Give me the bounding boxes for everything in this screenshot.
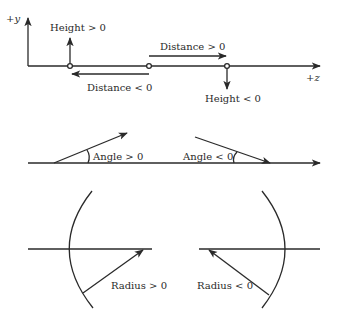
angle-negative-label: Angle < 0 — [182, 151, 233, 162]
angle-positive-label: Angle > 0 — [92, 151, 143, 162]
angle-arc — [233, 152, 237, 163]
radius-negative-label: Radius < 0 — [197, 280, 253, 291]
point-marker — [68, 64, 73, 69]
y-axis-label: +y — [6, 13, 20, 24]
radius-positive-label: Radius > 0 — [111, 280, 167, 291]
sign-convention-diagram: +y +z Height > 0 Distance > 0 Distance <… — [0, 0, 337, 326]
distance-negative-label: Distance < 0 — [87, 82, 152, 93]
point-marker — [225, 64, 230, 69]
point-marker — [147, 64, 152, 69]
panel-angle: Angle > 0 Angle < 0 — [28, 133, 320, 163]
distance-positive-label: Distance > 0 — [160, 41, 225, 52]
height-positive-label: Height > 0 — [50, 22, 106, 33]
angle-arc — [87, 150, 89, 163]
height-negative-label: Height < 0 — [205, 93, 261, 104]
panel-radius: Radius > 0 Radius < 0 — [28, 191, 320, 308]
panel-distance-height: +y +z Height > 0 Distance > 0 Distance <… — [6, 13, 320, 104]
z-axis-label: +z — [306, 72, 320, 83]
